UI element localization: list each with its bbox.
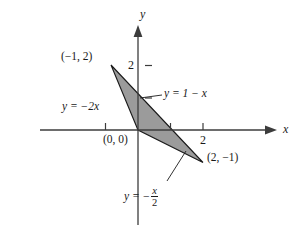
- x-axis-arrowhead: [265, 126, 277, 135]
- y-axis-arrowhead: [134, 25, 143, 37]
- y-tick-label-2: 2: [128, 59, 134, 71]
- vertex-label-2-minus1: (2, −1): [207, 152, 238, 164]
- equation-label-y-equals-minus-2x: y = −2x: [62, 101, 99, 113]
- coordinate-plane-figure: y x 2 2 (−1, 2) (0, 0) (2, −1) y = −2x y…: [0, 0, 299, 232]
- equation-label-y-equals-minus-x-over-2: y = − x 2: [124, 185, 158, 208]
- fraction-x-over-2: x 2: [151, 185, 158, 208]
- shaded-triangle-region: [111, 65, 203, 163]
- x-axis-label: x: [283, 123, 288, 135]
- fraction-numerator: x: [151, 185, 158, 196]
- equation-label-y-equals-1-minus-x: y = 1 − x: [164, 88, 207, 100]
- equation-bottom-prefix: y = −: [124, 191, 150, 203]
- y-axis-label: y: [140, 8, 145, 20]
- x-tick-label-2: 2: [200, 134, 206, 146]
- vertex-label-minus1-2: (−1, 2): [61, 51, 92, 63]
- fraction-denominator: 2: [151, 197, 158, 208]
- leader-line-bottom-label: [167, 151, 186, 181]
- vertex-label-origin: (0, 0): [103, 134, 128, 146]
